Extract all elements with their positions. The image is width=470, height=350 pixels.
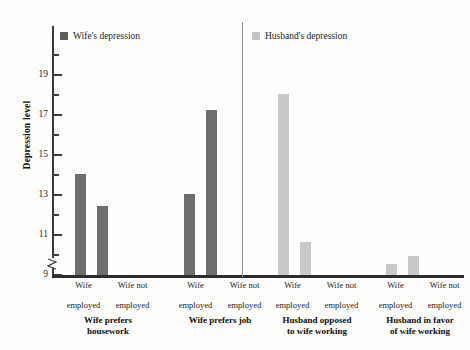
legend-husband: Husband's depression [252, 31, 347, 41]
plot-area [53, 26, 464, 275]
group-4-left-label: Wifeemployed [374, 281, 418, 310]
group-4-subcategories: Wifeemployed Wife notemployed [370, 281, 470, 310]
legend-swatch-husband-icon [252, 32, 260, 40]
group-4-title: Husband in favorof wife working [370, 315, 470, 337]
x-axis-baseline [52, 275, 464, 278]
panel-divider [242, 22, 243, 277]
group-3-right-label: Wife notemployed [320, 281, 364, 310]
group-1-right-label: Wife notemployed [111, 281, 155, 310]
y-tick-label-19: 19 [18, 69, 48, 79]
bar-wife-prefers-job-employed [184, 194, 195, 275]
group-4-right-label: Wife notemployed [423, 281, 467, 310]
legend-label-husband: Husband's depression [265, 31, 347, 41]
legend-wife: Wife's depression [60, 31, 140, 41]
bar-husband-favor-employed [386, 264, 397, 275]
group-husband-favor: Wifeemployed Wife notemployed Husband in… [370, 281, 470, 337]
y-tick-label-9: 9 [18, 269, 48, 279]
bar-wife-prefers-job-not-employed [206, 110, 217, 275]
legend-label-wife: Wife's depression [73, 31, 140, 41]
y-tick-label-17: 17 [18, 109, 48, 119]
group-2-left-label: Wifeemployed [174, 281, 218, 310]
y-axis-title: Depression level [22, 80, 32, 190]
bar-husband-favor-not-employed [408, 256, 419, 275]
bar-wife-prefers-housework-not-employed [97, 206, 108, 275]
group-3-subcategories: Wifeemployed Wife notemployed [256, 281, 378, 310]
group-1-subcategories: Wifeemployed Wife notemployed [50, 281, 166, 310]
group-husband-opposed: Wifeemployed Wife notemployed Husband op… [256, 281, 378, 337]
grouped-bar-chart: Depression level 19171513119 Wife's depr… [0, 0, 470, 350]
y-tick-label-11: 11 [18, 229, 48, 239]
bar-husband-opposed-employed [278, 94, 289, 275]
y-tick-label-13: 13 [18, 189, 48, 199]
bar-wife-prefers-housework-employed [75, 174, 86, 275]
group-3-title: Husband opposedto wife working [256, 315, 378, 337]
x-axis-labels: Wifeemployed Wife notemployed Wife prefe… [0, 281, 470, 350]
group-wife-prefers-housework: Wifeemployed Wife notemployed Wife prefe… [50, 281, 166, 337]
legend-swatch-wife-icon [60, 32, 68, 40]
group-1-title: Wife prefershousework [50, 315, 166, 337]
y-tick-label-15: 15 [18, 149, 48, 159]
group-3-left-label: Wifeemployed [271, 281, 315, 310]
group-1-left-label: Wifeemployed [62, 281, 106, 310]
bar-husband-opposed-not-employed [300, 242, 311, 275]
